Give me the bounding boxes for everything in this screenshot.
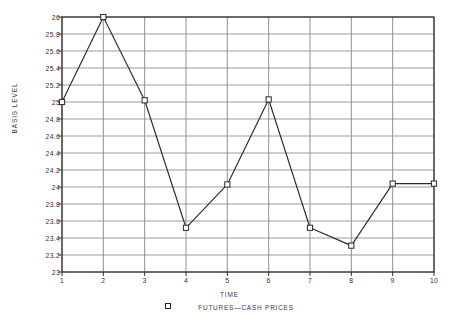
x-axis-tick-label: 7	[308, 277, 312, 284]
data-point-marker	[101, 14, 106, 19]
data-point-marker	[307, 225, 312, 230]
x-axis-tick-label: 6	[267, 277, 271, 284]
axes-frame	[62, 17, 434, 272]
plot-area	[0, 0, 459, 323]
data-point-marker	[390, 181, 395, 186]
x-axis-tick-label: 5	[225, 277, 229, 284]
data-point-marker	[266, 97, 271, 102]
data-point-marker	[183, 225, 188, 230]
x-axis-tick-label: 10	[430, 277, 438, 284]
data-point-marker	[225, 182, 230, 187]
data-point-marker	[142, 98, 147, 103]
x-axis-tick-label: 1	[60, 277, 64, 284]
x-axis-tick-label: 9	[391, 277, 395, 284]
chart-figure: BASIS LEVEL 2323.223.423.623.82424.224.4…	[0, 0, 459, 323]
x-axis-tick-label: 8	[349, 277, 353, 284]
x-axis-tick-label: 3	[143, 277, 147, 284]
data-point-marker	[349, 243, 354, 248]
data-point-marker	[59, 99, 64, 104]
chart-legend: FUTURES—CASH PRICES	[0, 303, 459, 311]
open-square-marker-icon	[165, 303, 171, 309]
x-axis-tick-label: 4	[184, 277, 188, 284]
x-axis-label: TIME	[0, 291, 459, 298]
legend-label: FUTURES—CASH PRICES	[198, 304, 294, 311]
data-point-marker	[431, 181, 436, 186]
x-axis-tick-label: 2	[101, 277, 105, 284]
